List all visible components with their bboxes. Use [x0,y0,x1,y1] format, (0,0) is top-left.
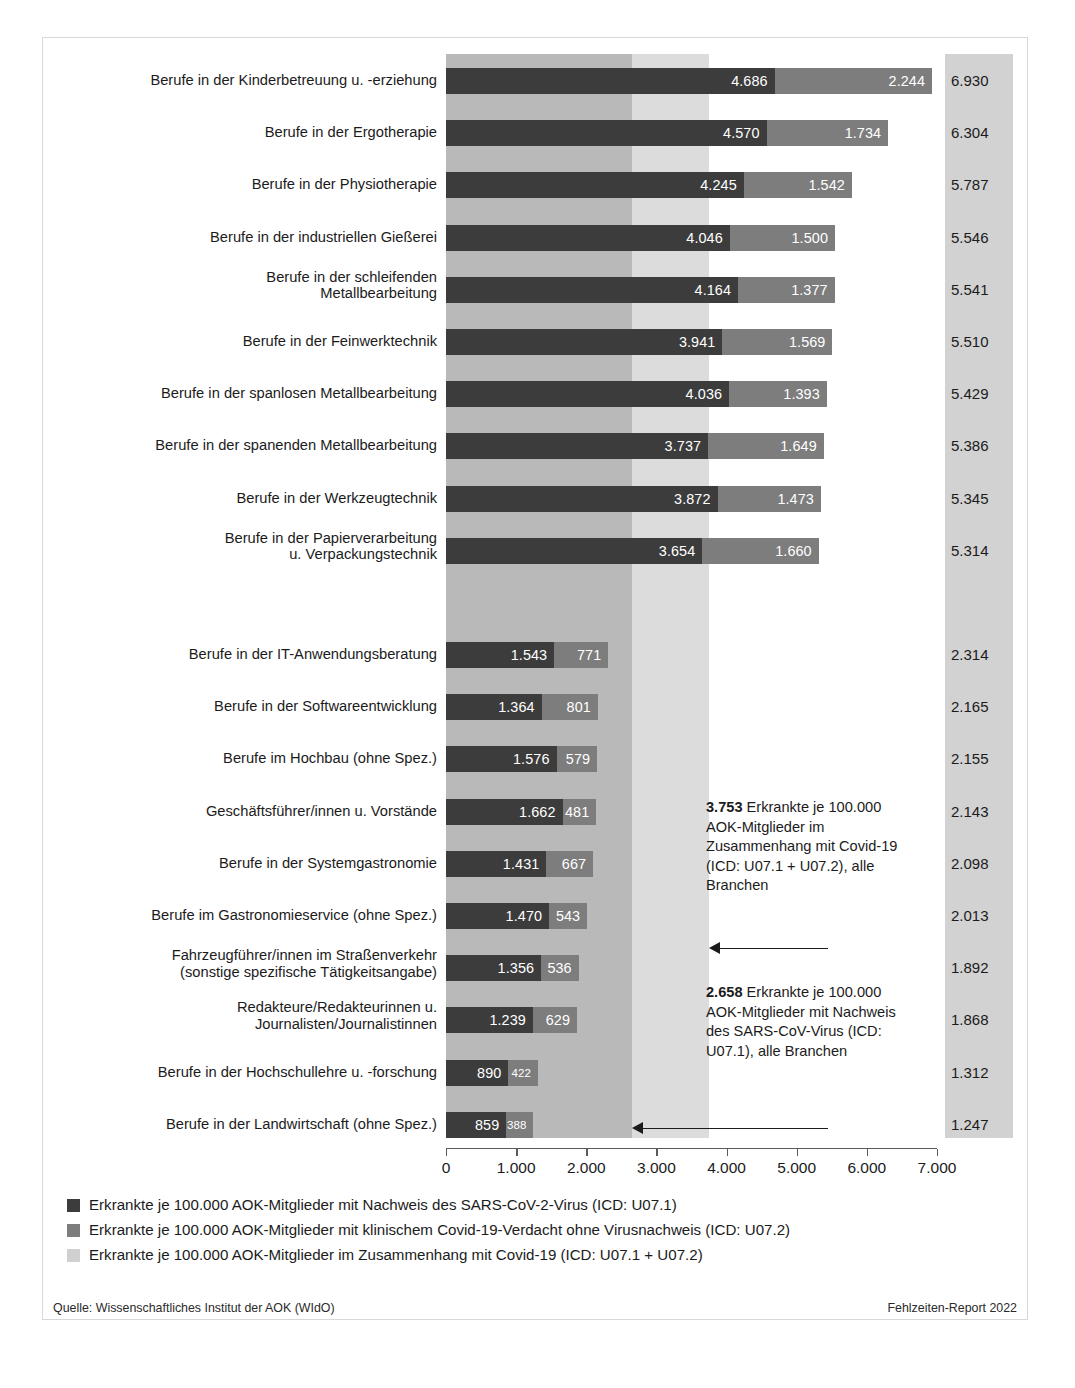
axis-tick [937,1149,938,1156]
bar-segment-u072: 1.500 [730,225,835,251]
bar-value-u071: 3.737 [446,438,708,454]
bar-total: 1.868 [951,1011,1017,1028]
category-label: Berufe in der Ergotherapie [67,124,446,140]
bar-row: Berufe in der IT-Anwendungsberatung1.543… [43,642,1029,668]
bar-value-u072: 2.244 [775,73,932,89]
bar-value-u071: 1.431 [446,856,546,872]
bar-segment-u071: 3.654 [446,538,702,564]
category-label: Berufe in der industriellen Gießerei [67,229,446,245]
bar-row: Berufe in der Werkzeugtechnik3.8721.4735… [43,486,1029,512]
bar-value-u072: 1.660 [702,543,818,559]
bar-value-u072: 388 [506,1119,533,1131]
bar-segment-u072: 1.734 [767,120,889,146]
bar-total: 6.930 [951,72,1017,89]
axis-line [446,1148,937,1149]
bar-total: 2.155 [951,750,1017,767]
bar-segment-u071: 4.164 [446,277,738,303]
arrow-line [641,1128,828,1129]
bar-value-u071: 1.239 [446,1012,533,1028]
category-label: Fahrzeugführer/innen im Straßenverkehr (… [67,947,446,980]
bar-segment-u071: 3.872 [446,486,718,512]
legend-label: Erkrankte je 100.000 AOK-Mitglieder im Z… [89,1246,703,1263]
arrow-line [718,948,828,949]
bar-segment-u072: 2.244 [775,68,932,94]
bar-segment-u071: 3.941 [446,329,722,355]
category-label: Berufe in der Hochschullehre u. -forschu… [67,1064,446,1080]
legend-item: Erkrankte je 100.000 AOK-Mitglieder im Z… [67,1246,1017,1263]
category-label: Redakteure/Redakteurinnen u. Journaliste… [67,999,446,1032]
bar-segment-u072: 543 [549,903,587,929]
bar-value-u071: 1.364 [446,699,542,715]
category-label: Berufe im Hochbau (ohne Spez.) [67,750,446,766]
bar-value-u072: 1.649 [708,438,824,454]
bar-value-u071: 1.576 [446,751,557,767]
bar-value-u072: 1.377 [738,282,835,298]
bar-value-u071: 4.046 [446,230,730,246]
bar-segment-u072: 1.377 [738,277,835,303]
bar-value-u072: 1.542 [744,177,852,193]
bar-segment-u072: 422 [508,1060,538,1086]
bar-total: 5.546 [951,229,1017,246]
bar-segment-u071: 1.431 [446,851,546,877]
axis-tick [797,1149,798,1156]
bar-segment-u071: 1.239 [446,1007,533,1033]
category-label: Geschäftsführer/innen u. Vorstände [67,803,446,819]
bar-total: 2.013 [951,907,1017,924]
bar-total: 1.247 [951,1116,1017,1133]
category-label: Berufe in der Physiotherapie [67,176,446,192]
bar-value-u072: 481 [563,804,597,820]
bar-segment-u071: 4.570 [446,120,767,146]
legend-label: Erkrankte je 100.000 AOK-Mitglieder mit … [89,1221,790,1238]
bar-value-u071: 3.941 [446,334,722,350]
bar-segment-u071: 1.543 [446,642,554,668]
legend-label: Erkrankte je 100.000 AOK-Mitglieder mit … [89,1196,677,1213]
bar-segment-u072: 1.660 [702,538,818,564]
chart-legend: Erkrankte je 100.000 AOK-Mitglieder mit … [67,1196,1017,1271]
bar-row: Berufe in der spanenden Metallbearbeitun… [43,433,1029,459]
bar-segment-u072: 667 [546,851,593,877]
bar-segment-u072: 481 [563,799,597,825]
legend-item: Erkrankte je 100.000 AOK-Mitglieder mit … [67,1196,1017,1213]
bar-segment-u071: 4.686 [446,68,775,94]
bar-total: 5.541 [951,281,1017,298]
axis-tick-label: 1.000 [481,1159,551,1177]
bar-value-u072: 422 [508,1067,538,1079]
bar-segment-u071: 3.737 [446,433,708,459]
report-note: Fehlzeiten-Report 2022 [888,1301,1018,1315]
annotation-value: 2.658 [706,984,743,1000]
annotation-3753: 3.753 Erkrankte je 100.000 AOK-Mitgliede… [706,798,898,896]
bar-total: 5.386 [951,437,1017,454]
bar-total: 5.345 [951,490,1017,507]
bar-segment-u071: 1.470 [446,903,549,929]
bar-row: Berufe im Gastronomieservice (ohne Spez.… [43,903,1029,929]
bar-total: 5.314 [951,542,1017,559]
bar-total: 5.429 [951,385,1017,402]
bar-value-u072: 667 [546,856,593,872]
bar-total: 2.098 [951,855,1017,872]
bar-total: 5.510 [951,333,1017,350]
bar-segment-u072: 801 [542,694,598,720]
bar-value-u072: 1.393 [729,386,827,402]
axis-tick-label: 0 [411,1159,481,1177]
bar-row: Berufe im Hochbau (ohne Spez.)1.5765792.… [43,746,1029,772]
category-label: Berufe in der schleifenden Metallbearbei… [67,269,446,302]
category-label: Berufe in der spanlosen Metallbearbeitun… [67,385,446,401]
bar-value-u071: 3.872 [446,491,718,507]
bar-segment-u072: 579 [557,746,598,772]
bar-value-u071: 1.470 [446,908,549,924]
axis-tick-label: 3.000 [621,1159,691,1177]
annotation-arrow [709,942,828,954]
chart-footer: Quelle: Wissenschaftliches Institut der … [53,1301,1017,1315]
bar-value-u071: 859 [446,1117,506,1133]
axis-tick-label: 5.000 [762,1159,832,1177]
bar-row: Berufe in der Landwirtschaft (ohne Spez.… [43,1112,1029,1138]
category-label: Berufe in der spanenden Metallbearbeitun… [67,437,446,453]
axis-tick-label: 4.000 [692,1159,762,1177]
bar-segment-u072: 388 [506,1112,533,1138]
bar-row: Fahrzeugführer/innen im Straßenverkehr (… [43,955,1029,981]
category-label: Berufe in der Softwareentwicklung [67,698,446,714]
bar-row: Berufe in der Papierverarbeitung u. Verp… [43,538,1029,564]
bar-value-u072: 629 [533,1012,577,1028]
bar-total: 2.143 [951,803,1017,820]
bar-segment-u071: 4.245 [446,172,744,198]
